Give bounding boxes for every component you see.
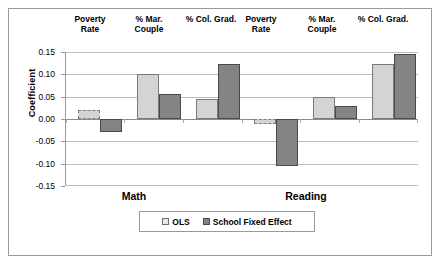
header-line-2: Couple (295, 24, 349, 34)
legend-entry-ols: OLS (162, 217, 189, 227)
gridline-0.15 (66, 52, 418, 53)
bar-reading-poverty-ols (254, 119, 276, 124)
y-tick-label-3: 0.00 (38, 114, 55, 124)
plot-area (66, 52, 418, 186)
gridline--0.10 (66, 164, 418, 165)
x-tick (417, 119, 418, 123)
header-line-2: Rate (233, 24, 289, 34)
legend-entry-school-fixed-effect: School Fixed Effect (203, 217, 292, 227)
y-tick-label-6: -0.15 (36, 181, 55, 191)
gridline--0.15 (66, 185, 418, 186)
bar-reading-poverty-sfe (276, 119, 298, 166)
header-line-1: Poverty (233, 14, 289, 24)
x-tick (124, 119, 125, 123)
group-label-math: Math (84, 190, 184, 202)
gridline--0.05 (66, 141, 418, 142)
header-reading-poverty-rate: Poverty Rate (233, 14, 289, 34)
y-tick-label-2: 0.05 (38, 92, 55, 102)
bar-math-marcouple-sfe (159, 94, 181, 119)
header-line-1: Poverty (62, 14, 118, 24)
header-reading-col-grad: % Col. Grad. (350, 14, 416, 24)
header-line-2: Couple (122, 24, 176, 34)
bar-math-poverty-ols (78, 110, 100, 119)
legend-swatch-sfe-icon (203, 218, 210, 225)
legend-swatch-ols-icon (162, 218, 169, 225)
x-tick (242, 119, 243, 123)
legend-label-school-fixed-effect: School Fixed Effect (213, 217, 292, 227)
y-tick-label-0: 0.15 (38, 47, 55, 57)
bar-math-marcouple-ols (137, 74, 159, 119)
y-tick-label-1: 0.10 (38, 69, 55, 79)
column-headers: Poverty Rate % Mar. Couple % Col. Grad. … (0, 14, 440, 44)
y-tick-0: 0.15 (61, 52, 65, 53)
y-tick-label-4: -0.05 (36, 136, 55, 146)
y-tick-2: 0.05 (61, 97, 65, 98)
header-line-1: % Col. Grad. (350, 14, 416, 24)
bar-reading-colgrad-ols (372, 64, 394, 119)
y-tick-3: 0.00 (61, 119, 65, 120)
header-reading-mar-couple: % Mar. Couple (295, 14, 349, 34)
bar-math-colgrad-sfe (218, 64, 240, 119)
y-tick-6: -0.15 (61, 186, 65, 187)
y-tick-4: -0.05 (61, 141, 65, 142)
x-tick (183, 119, 184, 123)
header-math-mar-couple: % Mar. Couple (122, 14, 176, 34)
bar-reading-marcouple-ols (313, 97, 335, 119)
x-tick (66, 119, 67, 123)
chart-figure: Poverty Rate % Mar. Couple % Col. Grad. … (0, 0, 440, 269)
header-line-1: % Mar. (122, 14, 176, 24)
bar-math-colgrad-ols (196, 99, 218, 119)
header-line-1: % Mar. (295, 14, 349, 24)
y-tick-label-5: -0.10 (36, 159, 55, 169)
y-tick-1: 0.10 (61, 74, 65, 75)
y-tick-5: -0.10 (61, 164, 65, 165)
bar-math-poverty-sfe (100, 119, 122, 132)
bar-reading-marcouple-sfe (335, 106, 357, 119)
x-tick (359, 119, 360, 123)
bar-reading-colgrad-sfe (394, 54, 416, 119)
group-label-reading: Reading (256, 190, 356, 202)
legend-label-ols: OLS (172, 217, 189, 227)
header-math-poverty-rate: Poverty Rate (62, 14, 118, 34)
gridline-0.10 (66, 74, 418, 75)
gridline-0.05 (66, 97, 418, 98)
x-tick (300, 119, 301, 123)
y-axis-title: Coefficient (27, 53, 37, 133)
header-line-2: Rate (62, 24, 118, 34)
chart-legend: OLS School Fixed Effect (139, 211, 315, 232)
